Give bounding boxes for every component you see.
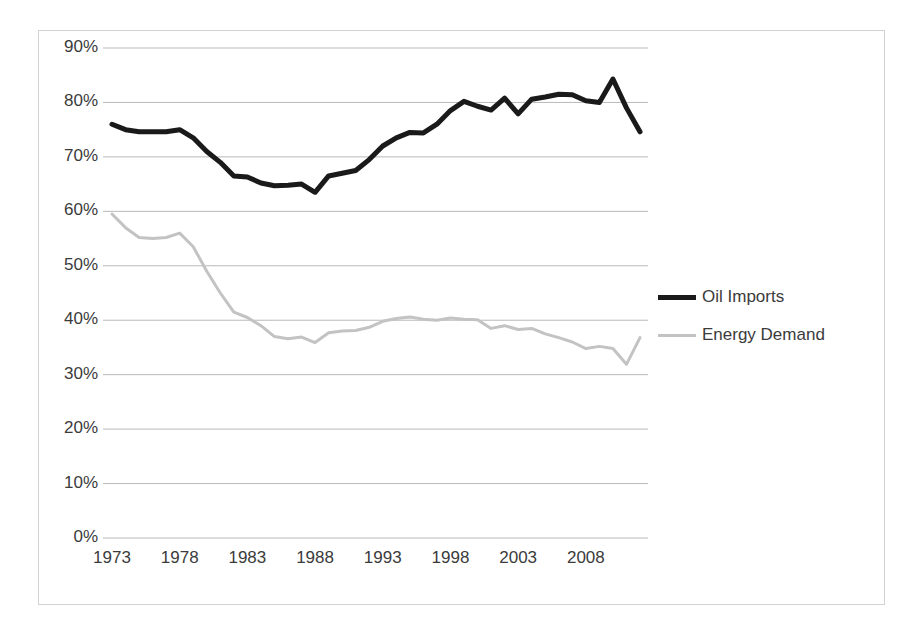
series-line-energy-demand bbox=[112, 214, 640, 364]
x-axis-tick-label: 1998 bbox=[420, 548, 480, 568]
y-axis-tick-label: 50% bbox=[42, 255, 98, 275]
y-axis-tick-label: 20% bbox=[42, 418, 98, 438]
y-axis-tick-label: 10% bbox=[42, 473, 98, 493]
legend-label-energy-demand: Energy Demand bbox=[702, 325, 825, 345]
x-axis-tick-label: 1973 bbox=[82, 548, 142, 568]
chart-legend: Oil Imports Energy Demand bbox=[658, 278, 858, 354]
legend-label-oil-imports: Oil Imports bbox=[702, 287, 784, 307]
legend-item-oil-imports: Oil Imports bbox=[658, 278, 858, 316]
x-axis-tick-label: 1993 bbox=[353, 548, 413, 568]
x-axis-tick-label: 1983 bbox=[217, 548, 277, 568]
gridlines-group bbox=[103, 48, 648, 538]
x-axis-tick-label: 2003 bbox=[488, 548, 548, 568]
x-axis-tick-label: 1978 bbox=[150, 548, 210, 568]
legend-item-energy-demand: Energy Demand bbox=[658, 316, 858, 354]
x-axis-tick-label: 2008 bbox=[556, 548, 616, 568]
series-lines-group bbox=[112, 79, 640, 364]
chart-root: 0%10%20%30%40%50%60%70%80%90% 1973197819… bbox=[0, 0, 917, 640]
y-axis-tick-label: 30% bbox=[42, 364, 98, 384]
oil-imports-line-swatch-icon bbox=[658, 295, 696, 300]
y-axis-tick-label: 90% bbox=[42, 37, 98, 57]
x-axis-tick-label: 1988 bbox=[285, 548, 345, 568]
series-line-oil-imports bbox=[112, 79, 640, 192]
energy-demand-line-swatch-icon bbox=[658, 334, 696, 337]
y-axis-tick-label: 40% bbox=[42, 309, 98, 329]
y-axis-tick-label: 0% bbox=[42, 527, 98, 547]
y-axis-tick-label: 80% bbox=[42, 91, 98, 111]
y-axis-tick-label: 70% bbox=[42, 146, 98, 166]
y-axis-tick-label: 60% bbox=[42, 200, 98, 220]
